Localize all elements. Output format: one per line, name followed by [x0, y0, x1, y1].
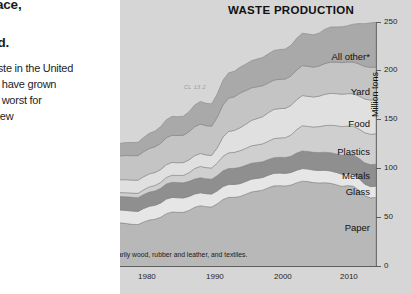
- y-axis-line: [376, 22, 377, 267]
- heading-fragment-1: ace,: [0, 0, 21, 12]
- chart-title: WASTE PRODUCTION: [228, 4, 354, 16]
- waste-production-figure: WASTE PRODUCTION CL 13.2 0 50 100 150 20…: [0, 0, 412, 294]
- body-line-4: new: [0, 110, 13, 122]
- x-tick-label-1990: 1990: [206, 272, 224, 281]
- y-tick-0: [376, 266, 381, 267]
- series-label-glass: Glass: [306, 186, 370, 197]
- y-tick-label-50: 50: [384, 212, 393, 221]
- body-line-1: aste in the United: [0, 62, 73, 74]
- y-tick-label-200: 200: [384, 65, 397, 74]
- series-label-all-other: All other*: [308, 51, 370, 62]
- series-label-yard: Yard: [308, 86, 370, 97]
- series-label-paper: Paper: [306, 222, 370, 233]
- heading-fragment-2: id.: [0, 35, 9, 50]
- y-tick-200: [376, 70, 381, 71]
- body-line-3: e worst for: [0, 94, 42, 106]
- y-tick-150: [376, 119, 381, 120]
- x-tick-label-2010: 2010: [340, 272, 358, 281]
- y-tick-label-100: 100: [384, 163, 397, 172]
- series-label-food: Food: [308, 118, 370, 129]
- figure-code-label: CL 13.2: [184, 84, 206, 90]
- y-tick-100: [376, 168, 381, 169]
- article-text-column: ace, id. aste in the United ts have grow…: [0, 0, 120, 294]
- series-label-metals: Metals: [306, 170, 370, 181]
- y-tick-label-150: 150: [384, 114, 397, 123]
- x-tick-label-2000: 2000: [274, 272, 292, 281]
- x-tick-label-1980: 1980: [138, 272, 156, 281]
- y-axis-title: Million tons: [370, 72, 380, 117]
- series-label-plastics: Plastics: [302, 146, 370, 157]
- body-line-2: ts have grown: [0, 78, 56, 90]
- y-tick-50: [376, 217, 381, 218]
- y-tick-label-0: 0: [384, 261, 388, 270]
- y-tick-label-250: 250: [384, 17, 397, 26]
- y-tick-250: [376, 22, 381, 23]
